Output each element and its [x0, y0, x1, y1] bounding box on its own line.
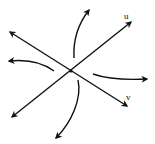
u-axis-label: u — [124, 11, 129, 21]
trajectory-right — [93, 74, 147, 79]
saddle-phase-portrait: u v — [0, 0, 155, 144]
v-axis — [10, 32, 127, 106]
trajectory-top — [74, 10, 89, 58]
trajectory-left — [9, 60, 54, 71]
saddle-point — [69, 69, 72, 72]
v-axis-label: v — [126, 92, 131, 102]
trajectory-bottom — [56, 80, 79, 138]
